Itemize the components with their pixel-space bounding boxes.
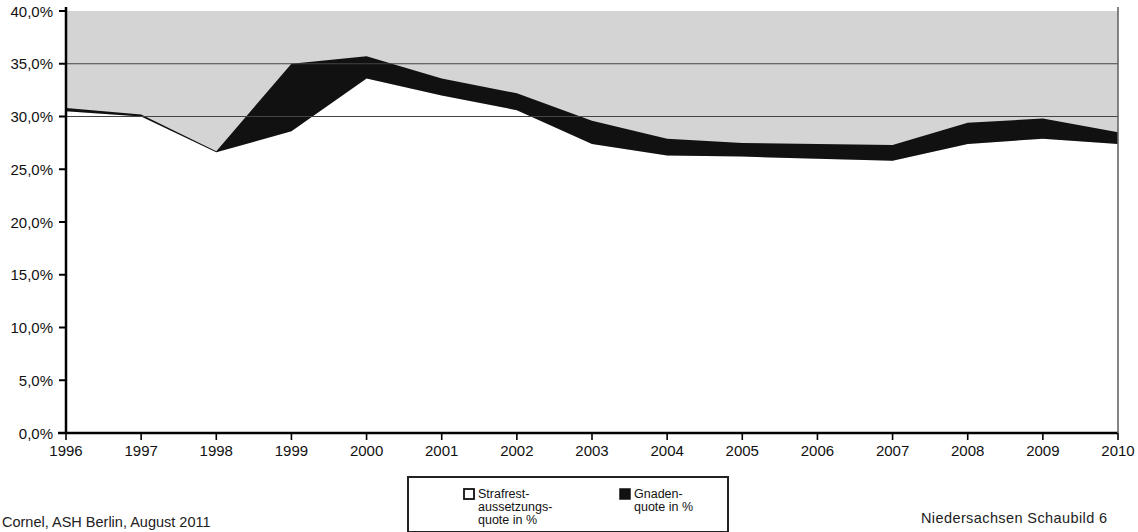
- x-axis-tick-label: 1998: [200, 442, 233, 459]
- y-axis-tick-label: 20,0%: [10, 214, 53, 231]
- legend-label-line: quote in %: [478, 513, 537, 527]
- x-axis-tick-label: 2007: [876, 442, 909, 459]
- x-axis-tick-label: 1996: [49, 442, 82, 459]
- source-note: Cornel, ASH Berlin, August 2011: [2, 514, 211, 530]
- x-axis-tick-labels: 1996199719981999200020012002200320042005…: [49, 442, 1134, 459]
- y-axis-tick-label: 15,0%: [10, 266, 53, 283]
- x-axis-tick-label: 1999: [275, 442, 308, 459]
- legend-label-line: Strafrest-: [478, 487, 529, 501]
- stacked-area-chart: 0,0%5,0%10,0%15,0%20,0%25,0%30,0%35,0%40…: [0, 0, 1138, 532]
- x-axis-tick-label: 2009: [1026, 442, 1059, 459]
- y-axis-tick-label: 30,0%: [10, 108, 53, 125]
- figure-caption: Niedersachsen Schaubild 6: [921, 510, 1108, 526]
- y-axis-tick-label: 25,0%: [10, 161, 53, 178]
- y-axis-tick-label: 5,0%: [19, 372, 53, 389]
- y-axis-tick-label: 0,0%: [19, 425, 53, 442]
- legend-marker-open-square: [464, 489, 474, 499]
- x-axis-tick-label: 2010: [1101, 442, 1134, 459]
- y-axis-tick-label: 40,0%: [10, 3, 53, 20]
- chart-container: 0,0%5,0%10,0%15,0%20,0%25,0%30,0%35,0%40…: [0, 0, 1138, 532]
- x-axis-tick-label: 2004: [650, 442, 683, 459]
- legend-label-line: quote in %: [634, 500, 693, 514]
- x-axis-tick-label: 2006: [801, 442, 834, 459]
- x-axis-tick-label: 2008: [951, 442, 984, 459]
- x-axis-tick-label: 2001: [425, 442, 458, 459]
- chart-legend: Strafrest-aussetzungs-quote in %Gnaden-q…: [408, 477, 728, 532]
- legend-label-line: Gnaden-: [634, 487, 683, 501]
- y-axis-tick-labels: 0,0%5,0%10,0%15,0%20,0%25,0%30,0%35,0%40…: [10, 3, 53, 442]
- y-axis-tick-label: 35,0%: [10, 55, 53, 72]
- x-axis-tick-label: 1997: [124, 442, 157, 459]
- x-axis-tick-label: 2003: [575, 442, 608, 459]
- plot-area: [66, 11, 1118, 161]
- x-axis-tick-label: 2002: [500, 442, 533, 459]
- y-axis-tick-label: 10,0%: [10, 319, 53, 336]
- x-axis-tick-label: 2005: [726, 442, 759, 459]
- legend-label-line: aussetzungs-: [478, 500, 552, 514]
- legend-marker-filled-square: [620, 489, 630, 499]
- x-axis-tick-label: 2000: [350, 442, 383, 459]
